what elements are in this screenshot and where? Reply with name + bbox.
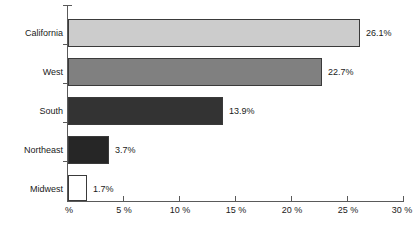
bar-northeast: [68, 136, 109, 164]
category-label-west: West: [43, 67, 63, 78]
x-axis-tick-0: [67, 196, 68, 202]
x-axis-label-30: 30 %: [392, 205, 413, 216]
x-axis-label-5: 5 %: [116, 205, 132, 216]
bar-value-south: 13.9%: [229, 106, 255, 117]
category-label-california: California: [25, 28, 63, 39]
category-label-northeast: Northeast: [24, 145, 63, 156]
x-axis-label-0: %: [65, 205, 73, 216]
bar-california: [68, 19, 360, 47]
x-axis-label-15: 15 %: [226, 205, 247, 216]
x-axis-label-20: 20 %: [282, 205, 303, 216]
category-label-south: South: [39, 106, 63, 117]
x-axis-tick-15: [235, 196, 236, 202]
bar-value-west: 22.7%: [328, 67, 354, 78]
bar-value-california: 26.1%: [366, 28, 392, 39]
bar-west: [68, 58, 322, 86]
x-axis-tick-10: [179, 196, 180, 202]
bar-midwest: [68, 175, 87, 201]
x-axis-tick-20: [291, 196, 292, 202]
x-axis-label-10: 10 %: [170, 205, 191, 216]
x-axis-tick-30: [403, 196, 404, 202]
x-axis-tick-25: [347, 196, 348, 202]
category-label-midwest: Midwest: [30, 184, 63, 195]
bar-value-northeast: 3.7%: [115, 145, 136, 156]
bar-value-midwest: 1.7%: [93, 184, 114, 195]
x-axis-label-25: 25 %: [338, 205, 359, 216]
bar-chart: California 26.1% West 22.7% South 13.9% …: [0, 0, 417, 235]
bar-south: [68, 97, 223, 125]
x-axis-tick-5: [123, 196, 124, 202]
